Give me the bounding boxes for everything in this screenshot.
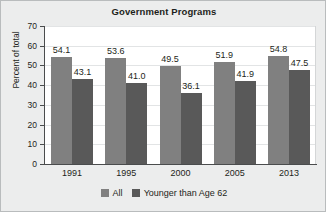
legend-label: All xyxy=(113,188,123,198)
y-axis-tick-label: 60 xyxy=(1,40,37,50)
chart-title: Government Programs xyxy=(1,6,326,17)
x-axis-tick-label: 2005 xyxy=(208,168,262,178)
x-axis-tick-label: 2000 xyxy=(153,168,207,178)
x-axis-line xyxy=(41,164,317,165)
legend-swatch-icon xyxy=(132,189,140,197)
chart-legend: AllYounger than Age 62 xyxy=(1,188,326,198)
bar-2005-younger xyxy=(235,81,256,164)
bar-value-label: 43.1 xyxy=(66,67,99,77)
bar-2013-all xyxy=(268,56,289,164)
gridline xyxy=(45,26,315,27)
bar-value-label: 47.5 xyxy=(283,58,316,68)
y-axis-tick-label: 50 xyxy=(1,60,37,70)
y-axis-tick-label: 70 xyxy=(1,21,37,31)
bar-2013-younger xyxy=(289,70,310,164)
bar-2000-younger xyxy=(181,93,202,164)
bar-value-label: 41.9 xyxy=(229,69,262,79)
bar-value-label: 41.0 xyxy=(120,71,153,81)
bar-1991-younger xyxy=(72,79,93,164)
bar-value-label: 54.8 xyxy=(262,44,295,54)
legend-swatch-icon xyxy=(101,189,109,197)
y-axis-tick-label: 10 xyxy=(1,139,37,149)
bar-1995-younger xyxy=(126,83,147,164)
plot-area: 54.143.153.641.049.536.151.941.954.847.5 xyxy=(45,26,316,164)
bar-value-label: 53.6 xyxy=(99,46,132,56)
legend-item-all[interactable]: All xyxy=(101,188,123,198)
y-axis-tick-label: 40 xyxy=(1,80,37,90)
bar-value-label: 54.1 xyxy=(45,45,78,55)
y-axis-tick-label: 30 xyxy=(1,99,37,109)
bar-value-label: 49.5 xyxy=(154,54,187,64)
chart-figure: Government Programs Percent of total 706… xyxy=(0,0,326,212)
x-axis-tick-label: 1991 xyxy=(45,168,99,178)
legend-label: Younger than Age 62 xyxy=(144,188,228,198)
x-axis-tick-label: 2013 xyxy=(262,168,316,178)
x-axis-tick-label: 1995 xyxy=(99,168,153,178)
y-axis-tick-label: 0 xyxy=(1,159,37,169)
legend-item-younger[interactable]: Younger than Age 62 xyxy=(132,188,228,198)
bar-value-label: 36.1 xyxy=(175,81,208,91)
y-axis-tick-label: 20 xyxy=(1,119,37,129)
bar-value-label: 51.9 xyxy=(208,50,241,60)
